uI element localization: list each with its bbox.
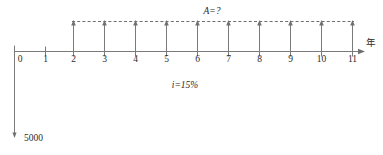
inflow-arrow-year-7 — [226, 20, 231, 51]
arrowhead-up-icon — [319, 20, 324, 26]
tick-label-4: 4 — [133, 54, 138, 64]
tick-label-7: 7 — [226, 54, 231, 64]
arrowhead-up-icon — [102, 20, 107, 26]
arrowhead-up-icon — [164, 20, 169, 26]
principal-amount-label: 5000 — [24, 133, 43, 143]
axis-unit-label: 年 — [366, 37, 376, 48]
tick-label-1: 1 — [43, 54, 48, 64]
tick-label-3: 3 — [102, 54, 107, 64]
inflow-arrow-year-9 — [288, 20, 293, 51]
tick-label-9: 9 — [288, 54, 293, 64]
tick-label-8: 8 — [257, 54, 262, 64]
arrowhead-up-icon — [350, 20, 355, 26]
tick-label-6: 6 — [195, 54, 200, 64]
cash-flow-svg: 0 1 2 3 4 5 6 7 8 9 10 11 年 A=? i=15% 50… — [0, 0, 383, 155]
arrowhead-down-icon — [12, 133, 16, 139]
arrowhead-up-icon — [288, 20, 293, 26]
arrowhead-up-icon — [71, 20, 76, 26]
inflow-arrow-year-11 — [350, 20, 355, 51]
arrowhead-up-icon — [133, 20, 138, 26]
interest-rate-label: i=15% — [172, 80, 199, 90]
tick-label-2: 2 — [71, 54, 76, 64]
time-axis — [15, 49, 365, 54]
arrowhead-up-icon — [226, 20, 231, 26]
series-amount-label: A=? — [203, 6, 221, 16]
tick-label-10: 10 — [317, 54, 327, 64]
inflow-arrow-group — [71, 20, 355, 51]
inflow-arrow-year-2 — [71, 20, 76, 51]
cash-flow-diagram: 0 1 2 3 4 5 6 7 8 9 10 11 年 A=? i=15% 50… — [0, 0, 383, 155]
inflow-arrow-year-8 — [257, 20, 262, 51]
inflow-arrow-year-10 — [319, 20, 324, 51]
inflow-arrow-year-5 — [164, 20, 169, 51]
inflow-arrow-year-3 — [102, 20, 107, 51]
inflow-arrow-year-4 — [133, 20, 138, 51]
tick-label-5: 5 — [164, 54, 169, 64]
arrowhead-up-icon — [195, 20, 200, 26]
tick-label-11: 11 — [348, 54, 357, 64]
arrowhead-up-icon — [257, 20, 262, 26]
outflow-arrow-year-0 — [12, 52, 16, 138]
inflow-arrow-year-6 — [195, 20, 200, 51]
tick-label-0: 0 — [18, 54, 23, 64]
axis-arrowhead-icon — [358, 49, 365, 54]
